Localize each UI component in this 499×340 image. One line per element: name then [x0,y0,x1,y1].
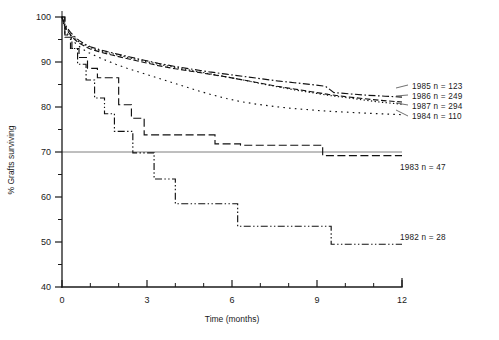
legend-label-1984: 1984 n = 110 [412,112,462,121]
legend-label-1987: 1987 n = 294 [412,102,463,111]
legend-label-1983: 1983 n = 47 [400,163,446,172]
x-axis-title: Time (months) [205,314,260,324]
legend-label-1985: 1985 n = 123 [412,82,463,91]
x-tick-label-0: 0 [59,295,64,305]
y-tick-label-90: 90 [41,57,51,67]
y-tick-label-80: 80 [41,102,51,112]
survival-chart-figure: 405060708090100036912 1985 n = 1231986 n… [0,0,499,340]
y-axis-title: % Grafts surviving [6,125,16,194]
graft-survival-line-chart: 405060708090100036912 1985 n = 1231986 n… [0,0,499,340]
x-tick-label-9: 9 [314,295,319,305]
x-tick-label-6: 6 [229,295,234,305]
y-tick-label-70: 70 [41,147,51,157]
x-tick-label-3: 3 [144,295,149,305]
y-tick-label-50: 50 [41,237,51,247]
x-tick-label-12: 12 [397,295,407,305]
y-tick-label-60: 60 [41,192,51,202]
legend-label-1982: 1982 n = 28 [400,233,446,242]
y-tick-label-40: 40 [41,282,51,292]
legend-label-1986: 1986 n = 249 [412,92,463,101]
y-tick-label-100: 100 [36,12,51,22]
